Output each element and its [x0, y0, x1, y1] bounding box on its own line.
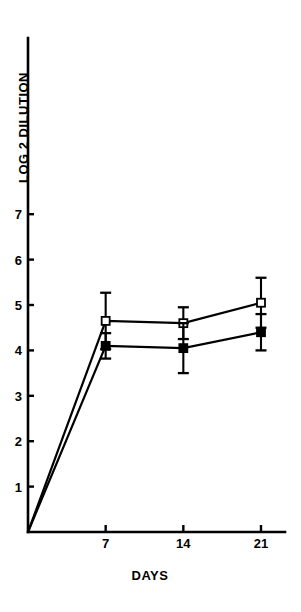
figure-panel: LOG 2 DILUTION DAYS 1234567 71421 — [0, 0, 301, 612]
filled-square-marker — [179, 344, 187, 352]
filled-square-marker — [102, 342, 110, 350]
series-open-square-series — [28, 278, 267, 532]
series-line — [28, 332, 261, 532]
y-axis-ticks: 1234567 — [15, 207, 34, 494]
y-tick-label: 3 — [15, 389, 22, 404]
line-chart-plot: 1234567 71421 — [0, 0, 301, 612]
x-axis-ticks: 71421 — [102, 525, 268, 551]
filled-square-marker — [257, 328, 265, 336]
y-tick-label: 1 — [15, 480, 22, 495]
y-tick-label: 5 — [15, 298, 22, 313]
y-tick-label: 7 — [15, 207, 22, 222]
series-filled-square-series — [28, 314, 267, 532]
x-tick-label: 21 — [254, 536, 268, 551]
x-tick-label: 7 — [102, 536, 109, 551]
series-line — [28, 303, 261, 532]
open-square-marker — [102, 317, 110, 325]
y-tick-label: 4 — [15, 343, 23, 358]
open-square-marker — [257, 299, 265, 307]
y-tick-label: 6 — [15, 253, 22, 268]
axes-group — [28, 38, 285, 532]
y-tick-label: 2 — [15, 434, 22, 449]
x-tick-label: 14 — [176, 536, 191, 551]
data-series-group — [28, 278, 267, 532]
